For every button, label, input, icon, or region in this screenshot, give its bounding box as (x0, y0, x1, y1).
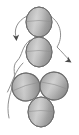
upper-middle-ellipse (26, 37, 52, 67)
ellipse-cluster-diagram (0, 0, 79, 135)
top-ellipse (26, 7, 52, 37)
cluster-bottom-ellipse (28, 97, 54, 127)
diagram-canvas: Ellipse cluster motion diagram Five shad… (0, 0, 79, 135)
